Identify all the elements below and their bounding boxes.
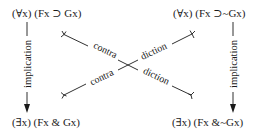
diagonal-contradiction-b: contra diction [61, 31, 195, 99]
right-implication-label: implication [228, 39, 239, 88]
fork-tick-icon [189, 92, 195, 99]
diagonal-a-label-diction: diction [142, 65, 172, 87]
fork-tick-icon [61, 93, 67, 99]
diagonal-b-label-contra: contra [88, 66, 116, 87]
right-arrow-down-icon [230, 104, 236, 113]
diagonal-b-label-diction: diction [139, 40, 169, 62]
left-arrow-down-icon [24, 104, 30, 113]
diagonal-a-label-contra: contra [92, 39, 120, 60]
right-implication-edge: implication [228, 22, 239, 113]
left-implication-edge: implication [22, 22, 33, 113]
left-implication-label: implication [22, 39, 33, 88]
square-of-opposition-diagram: (∀x) (Fx ⊃ Gx) (∀x) (Fx ⊃~Gx) (∃x) (Fx &… [0, 0, 258, 135]
fork-tick-icon [61, 31, 66, 37]
diagram-lines: implication implication contra diction [0, 0, 258, 135]
